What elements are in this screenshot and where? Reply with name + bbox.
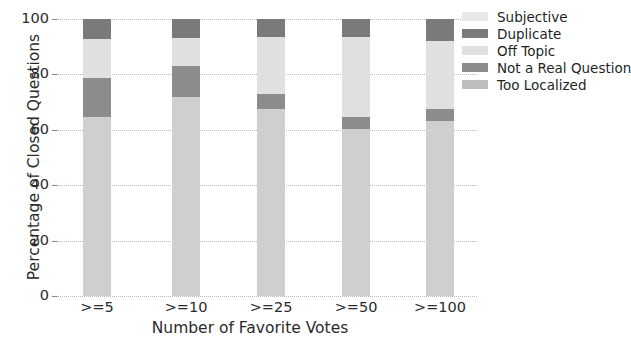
y-axis-tick-mark bbox=[52, 241, 57, 242]
bar-segment[interactable] bbox=[426, 41, 454, 109]
y-axis-tick-label: 0 bbox=[0, 287, 49, 303]
legend-item[interactable]: Subjective bbox=[462, 9, 631, 25]
bar-segment[interactable] bbox=[83, 117, 111, 296]
bar-stack[interactable] bbox=[342, 19, 370, 296]
y-axis-tick-mark bbox=[52, 19, 57, 20]
x-axis-tick-label: >=50 bbox=[316, 299, 396, 315]
legend-label: Too Localized bbox=[497, 77, 586, 93]
bar-segment[interactable] bbox=[426, 121, 454, 296]
bar-segment[interactable] bbox=[426, 19, 454, 41]
legend-swatch bbox=[462, 63, 488, 72]
legend-item[interactable]: Off Topic bbox=[462, 43, 631, 59]
bar-segment[interactable] bbox=[342, 37, 370, 117]
x-axis-tick-label: >=25 bbox=[231, 299, 311, 315]
y-axis-tick-label: 100 bbox=[0, 10, 49, 26]
bar-segment[interactable] bbox=[342, 117, 370, 129]
y-axis-tick-label: 60 bbox=[0, 121, 49, 137]
x-axis-tick-label: >=10 bbox=[146, 299, 226, 315]
y-axis-tick-mark bbox=[52, 130, 57, 131]
bar-stack[interactable] bbox=[257, 19, 285, 296]
bar-segment[interactable] bbox=[257, 37, 285, 94]
bar-segment[interactable] bbox=[172, 97, 200, 296]
bar-segment[interactable] bbox=[83, 78, 111, 117]
legend-swatch bbox=[462, 12, 488, 21]
bar-segment[interactable] bbox=[172, 19, 200, 38]
plot-area bbox=[57, 19, 477, 296]
legend-label: Not a Real Question bbox=[497, 60, 631, 76]
y-axis-title: Percentage of Closed Questions bbox=[25, 17, 43, 297]
legend-item[interactable]: Too Localized bbox=[462, 77, 631, 93]
x-axis-tick-label: >=100 bbox=[400, 299, 480, 315]
y-axis-tick-label: 40 bbox=[0, 176, 49, 192]
legend-swatch bbox=[462, 46, 488, 55]
y-axis-tick-label: 20 bbox=[0, 232, 49, 248]
bar-stack[interactable] bbox=[172, 19, 200, 296]
gridline bbox=[57, 296, 477, 297]
bar-segment[interactable] bbox=[83, 39, 111, 78]
legend-label: Duplicate bbox=[497, 26, 561, 42]
bar-segment[interactable] bbox=[257, 19, 285, 37]
chart-legend: SubjectiveDuplicateOff TopicNot a Real Q… bbox=[462, 9, 631, 94]
x-axis-title: Number of Favorite Votes bbox=[0, 319, 500, 337]
bar-stack[interactable] bbox=[83, 19, 111, 296]
bar-segment[interactable] bbox=[342, 129, 370, 296]
y-axis-tick-mark bbox=[52, 296, 57, 297]
legend-item[interactable]: Not a Real Question bbox=[462, 60, 631, 76]
bar-segment[interactable] bbox=[83, 19, 111, 39]
legend-swatch bbox=[462, 29, 488, 38]
y-axis-tick-label: 80 bbox=[0, 65, 49, 81]
legend-item[interactable]: Duplicate bbox=[462, 26, 631, 42]
bar-stack[interactable] bbox=[426, 19, 454, 296]
bar-segment[interactable] bbox=[172, 66, 200, 97]
bar-segment[interactable] bbox=[426, 109, 454, 121]
y-axis-tick-mark bbox=[52, 74, 57, 75]
legend-label: Off Topic bbox=[497, 43, 555, 59]
bar-segment[interactable] bbox=[257, 109, 285, 296]
legend-label: Subjective bbox=[497, 9, 568, 25]
bar-segment[interactable] bbox=[172, 38, 200, 66]
bar-segment[interactable] bbox=[342, 19, 370, 37]
bar-segment[interactable] bbox=[257, 94, 285, 109]
y-axis-tick-mark bbox=[52, 185, 57, 186]
x-axis-tick-label: >=5 bbox=[57, 299, 137, 315]
legend-swatch bbox=[462, 80, 488, 89]
